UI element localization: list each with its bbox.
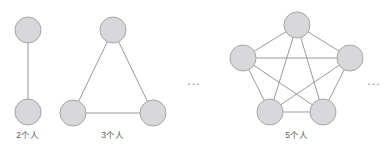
graph-edge	[270, 58, 350, 112]
person-node-icon	[284, 12, 310, 38]
graph-group-3-nodes	[60, 17, 166, 126]
node-layer	[60, 17, 166, 126]
person-node-icon	[310, 99, 336, 125]
graph-edge	[297, 25, 323, 112]
ellipsis-right: ...	[367, 74, 380, 87]
graph-edge	[270, 25, 297, 112]
graph-label-2-nodes: 2个人	[16, 131, 39, 140]
graph-group-2-nodes	[15, 17, 41, 125]
ellipsis-middle: ...	[187, 74, 200, 87]
graph-label-5-nodes: 5个人	[285, 131, 308, 140]
graph-edge	[113, 30, 153, 113]
person-node-icon	[257, 99, 283, 125]
graph-edge	[73, 30, 113, 113]
person-node-icon	[15, 17, 41, 43]
person-node-icon	[60, 100, 86, 126]
person-node-icon	[230, 45, 256, 71]
person-node-icon	[337, 45, 363, 71]
graph-group-5-nodes	[230, 12, 363, 125]
graph-label-3-nodes: 3个人	[101, 131, 124, 140]
person-node-icon	[140, 100, 166, 126]
graph-edge	[243, 58, 323, 112]
person-node-icon	[100, 17, 126, 43]
node-layer	[230, 12, 363, 125]
graph-sequence-figure: 2个人3个人5个人......	[0, 0, 387, 155]
person-node-icon	[15, 99, 41, 125]
